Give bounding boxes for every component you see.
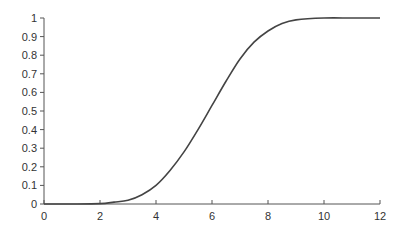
y-tick-label: 0.2 <box>22 161 37 173</box>
y-tick-label: 0.9 <box>22 31 37 43</box>
x-tick-label: 4 <box>153 210 159 222</box>
x-tick-label: 12 <box>374 210 386 222</box>
y-tick-label: 0.5 <box>22 105 37 117</box>
y-tick-label: 0.3 <box>22 142 37 154</box>
y-tick-label: 0.6 <box>22 86 37 98</box>
y-axis-ticks: 00.10.20.30.40.50.60.70.80.91 <box>22 12 44 210</box>
x-tick-label: 10 <box>318 210 330 222</box>
y-tick-label: 1 <box>31 12 37 24</box>
y-tick-label: 0.7 <box>22 68 37 80</box>
x-tick-label: 0 <box>41 210 47 222</box>
y-tick-label: 0 <box>31 198 37 210</box>
x-tick-label: 2 <box>97 210 103 222</box>
data-line <box>44 18 380 204</box>
y-tick-label: 0.4 <box>22 124 37 136</box>
x-tick-label: 8 <box>265 210 271 222</box>
y-tick-label: 0.8 <box>22 49 37 61</box>
chart: 00.10.20.30.40.50.60.70.80.91 024681012 <box>0 0 404 233</box>
x-tick-label: 6 <box>209 210 215 222</box>
axes <box>44 18 380 204</box>
y-tick-label: 0.1 <box>22 179 37 191</box>
